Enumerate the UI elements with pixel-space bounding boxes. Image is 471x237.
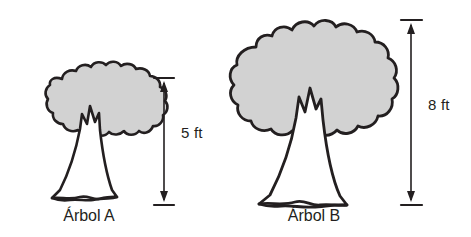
tree-b-caption: Árbol B	[228, 207, 400, 225]
dimension-b-graphic	[401, 20, 422, 205]
dimension-b-arrowhead-up	[407, 23, 415, 34]
dimension-b-label: 8 ft	[428, 96, 450, 113]
dimension-a-arrowhead-down	[160, 191, 168, 202]
figure-canvas: 5 ft 8 ft Árbol A Árbol B	[0, 0, 471, 237]
tree-a-graphic	[46, 62, 168, 201]
dimension-a-label: 5 ft	[181, 124, 203, 141]
tree-b-graphic	[230, 20, 398, 207]
tree-a-caption: Árbol A	[0, 207, 178, 225]
dimension-b-arrowhead-down	[407, 191, 415, 202]
tree-a-canopy	[46, 62, 168, 136]
tree-comparison-illustration	[0, 0, 471, 237]
